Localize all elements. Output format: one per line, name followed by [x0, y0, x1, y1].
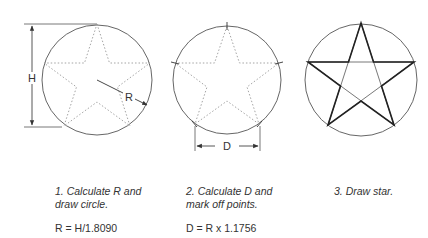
radius-label: R: [125, 91, 133, 103]
step-3-line-1: 3. Draw star.: [334, 185, 393, 198]
figure-1-circle-with-height: H R: [24, 24, 152, 135]
chord-label: D: [223, 140, 231, 152]
figure-3-pentagram: [305, 23, 417, 136]
step-2-line-1: 2. Calculate D and: [186, 185, 272, 198]
step-2-line-2: mark off points.: [186, 198, 272, 211]
step-1-formula: R = H/1.8090: [55, 222, 117, 234]
step-1-instructions: 1. Calculate R and draw circle.: [55, 185, 141, 211]
step-2-instructions: 2. Calculate D and mark off points.: [186, 185, 272, 211]
step-1-line-1: 1. Calculate R and: [55, 185, 141, 198]
figure-2-circle-with-chord: D: [171, 22, 283, 152]
height-label: H: [28, 72, 36, 84]
step-2-formula: D = R x 1.1756: [186, 222, 256, 234]
step-1-line-2: draw circle.: [55, 198, 141, 211]
step-3-instructions: 3. Draw star.: [334, 185, 393, 198]
